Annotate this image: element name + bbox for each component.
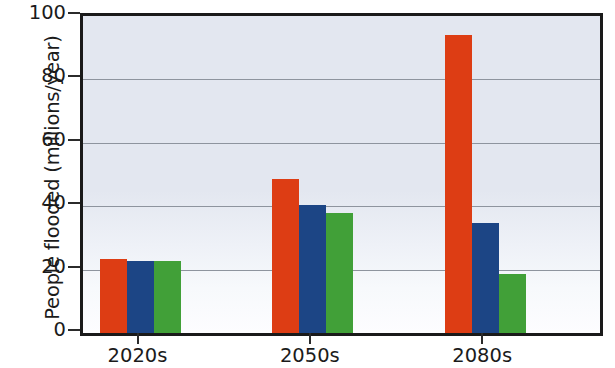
x-axis-tick-mark (481, 333, 483, 344)
bar (326, 213, 353, 333)
y-axis-tick-mark (68, 12, 80, 14)
y-axis-tick-label: 100 (18, 3, 66, 23)
y-axis-tick-mark (68, 139, 80, 141)
bar (445, 35, 472, 333)
y-axis-tick-label: 20 (18, 257, 66, 277)
y-axis-tick-label: 40 (18, 193, 66, 213)
x-axis-tick-label: 2020s (78, 344, 198, 367)
bar-chart: People flooded (millions/year) 100806040… (0, 0, 615, 368)
gridline (83, 79, 600, 80)
bar (154, 261, 181, 333)
plot-area (80, 13, 603, 336)
bar (100, 259, 127, 333)
x-axis-tick-label: 2050s (250, 344, 370, 367)
y-axis-tick-label: 80 (18, 66, 66, 86)
y-axis-tick-labels: 100806040200 (12, 0, 66, 368)
y-axis-tick-mark (68, 202, 80, 204)
gridline (83, 143, 600, 144)
bar (272, 179, 299, 333)
x-axis-tick-mark (309, 333, 311, 344)
bar (472, 223, 499, 333)
x-axis-tick-label: 2080s (422, 344, 542, 367)
x-axis-tick-mark (137, 333, 139, 344)
bar (127, 261, 154, 333)
bar (299, 205, 326, 333)
y-axis-tick-label: 0 (18, 320, 66, 340)
y-axis-tick-label: 60 (18, 130, 66, 150)
x-axis: 2020s2050s2080s (80, 330, 600, 368)
y-axis-tick-mark (68, 266, 80, 268)
y-axis-tick-mark (68, 329, 80, 331)
y-axis-tick-mark (68, 75, 80, 77)
gridline (83, 206, 600, 207)
bar (499, 274, 526, 333)
